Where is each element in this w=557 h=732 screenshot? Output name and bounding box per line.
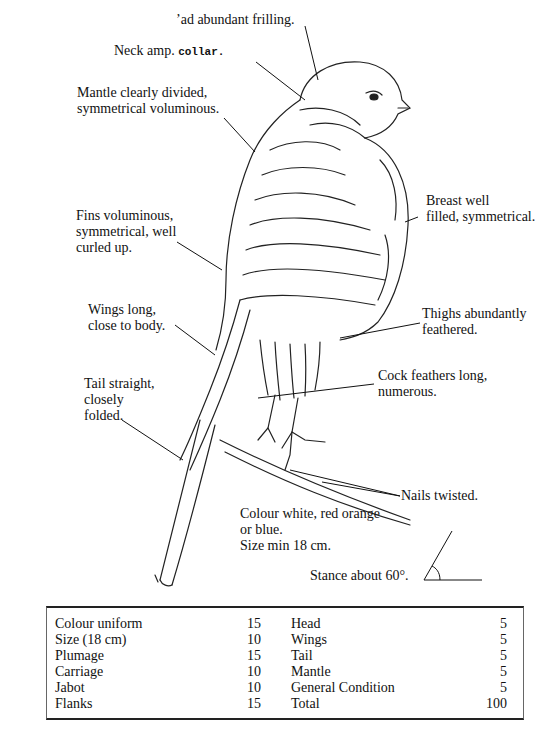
label-breast-2: filled, symmetrical.	[426, 209, 535, 225]
label-neck-suffix: collar.	[178, 46, 224, 58]
score-table: Colour uniform 15 Head 5 Size (18 cm) 10…	[46, 606, 524, 720]
row-label: Carriage	[55, 664, 103, 680]
table-row: Flanks 15 Total 100	[47, 696, 523, 712]
label-breast-1: Breast well	[426, 193, 489, 209]
row-points: 5	[467, 680, 507, 696]
row-label: Jabot	[55, 680, 85, 696]
label-neck: Neck amp. collar.	[114, 43, 224, 60]
label-cock-1: Cock feathers long,	[378, 368, 487, 384]
label-nails: Nails twisted.	[401, 488, 478, 504]
label-thighs-2: feathered.	[422, 322, 478, 338]
label-tail-1: Tail straight,	[84, 376, 155, 392]
label-neck-prefix: Neck amp.	[114, 43, 175, 58]
label-colour-1: Colour white, red orange	[240, 506, 380, 522]
label-size: Size min 18 cm.	[240, 538, 331, 554]
row-points: 100	[467, 696, 507, 712]
label-colour-2: or blue.	[240, 522, 283, 538]
label-fins-3: curled up.	[76, 240, 132, 256]
row-points: 5	[467, 648, 507, 664]
label-mantle-1: Mantle clearly divided,	[77, 85, 207, 101]
row-points: 5	[467, 664, 507, 680]
table-row: Colour uniform 15 Head 5	[47, 616, 523, 632]
row-label: General Condition	[291, 680, 395, 696]
row-label: Tail	[291, 648, 313, 664]
row-label: Wings	[291, 632, 327, 648]
row-label: Flanks	[55, 696, 92, 712]
label-fins-2: symmetrical, well	[76, 224, 176, 240]
label-tail-2: closely	[84, 392, 124, 408]
row-label: Total	[291, 696, 320, 712]
row-points: 15	[237, 696, 261, 712]
label-mantle-2: symmetrical voluminous.	[77, 101, 219, 117]
label-tail-3: folded.	[84, 408, 123, 424]
table-row: Carriage 10 Mantle 5	[47, 664, 523, 680]
label-wings-1: Wings long,	[88, 302, 156, 318]
label-wings-2: close to body.	[88, 318, 165, 334]
row-points: 5	[467, 616, 507, 632]
table-row: Size (18 cm) 10 Wings 5	[47, 632, 523, 648]
row-label: Plumage	[55, 648, 104, 664]
row-points: 5	[467, 632, 507, 648]
label-cock-2: numerous.	[378, 384, 437, 400]
label-head: ʼad abundant frilling.	[176, 12, 295, 28]
row-points: 15	[237, 616, 261, 632]
label-stance: Stance about 60°.	[310, 568, 409, 584]
row-label: Mantle	[291, 664, 331, 680]
row-label: Head	[291, 616, 321, 632]
row-points: 10	[237, 664, 261, 680]
row-points: 15	[237, 648, 261, 664]
label-thighs-1: Thighs abundantly	[422, 306, 527, 322]
row-label: Size (18 cm)	[55, 632, 127, 648]
row-points: 10	[237, 632, 261, 648]
row-label: Colour uniform	[55, 616, 143, 632]
label-fins-1: Fins voluminous,	[76, 208, 173, 224]
row-points: 10	[237, 680, 261, 696]
table-row: Jabot 10 General Condition 5	[47, 680, 523, 696]
table-row: Plumage 15 Tail 5	[47, 648, 523, 664]
